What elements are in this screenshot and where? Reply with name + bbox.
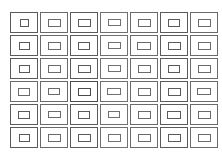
grid-cell: [9, 11, 39, 34]
inner-rectangle: [78, 65, 91, 73]
grid-cell: [159, 11, 189, 34]
pattern-canvas: [0, 0, 222, 156]
grid-cell: [39, 103, 69, 126]
inner-rectangle: [138, 88, 151, 96]
inner-rectangle: [19, 42, 30, 50]
grid-cell: [189, 80, 219, 103]
grid-cell: [159, 34, 189, 57]
inner-rectangle: [108, 19, 121, 26]
inner-rectangle: [19, 65, 30, 73]
grid-cell: [129, 57, 159, 80]
grid-cell: [159, 80, 189, 103]
grid-cell: [99, 103, 129, 126]
inner-rectangle: [198, 19, 211, 27]
inner-rectangle: [198, 65, 211, 73]
grid-cell: [99, 11, 129, 34]
grid-cell: [69, 80, 99, 103]
inner-rectangle: [48, 42, 61, 50]
grid-cell: [99, 80, 129, 103]
grid-cell: [129, 103, 159, 126]
inner-rectangle: [78, 134, 91, 142]
inner-rectangle: [48, 65, 61, 73]
grid-cell: [189, 126, 219, 149]
grid-cell: [159, 103, 189, 126]
inner-rectangle: [48, 111, 61, 118]
grid-cell: [159, 57, 189, 80]
inner-rectangle: [18, 111, 30, 119]
inner-rectangle: [108, 134, 121, 142]
grid-cell: [129, 34, 159, 57]
inner-rectangle: [48, 88, 60, 95]
inner-rectangle: [108, 111, 120, 118]
inner-rectangle: [107, 88, 121, 95]
grid-cell: [9, 57, 39, 80]
grid-cell: [39, 34, 69, 57]
grid-cell: [159, 126, 189, 149]
inner-rectangle: [138, 65, 151, 73]
grid-cell: [69, 103, 99, 126]
grid-cell: [189, 57, 219, 80]
grid-cell: [69, 57, 99, 80]
grid-cell: [129, 80, 159, 103]
grid-cell: [129, 126, 159, 149]
grid-cell: [9, 80, 39, 103]
grid-cell: [189, 103, 219, 126]
inner-rectangle: [18, 88, 30, 96]
inner-rectangle: [198, 111, 211, 119]
rectangle-grid: [9, 11, 219, 149]
grid-cell: [99, 126, 129, 149]
inner-rectangle: [137, 42, 151, 50]
grid-cell: [189, 34, 219, 57]
grid-cell: [39, 57, 69, 80]
grid-cell: [39, 126, 69, 149]
grid-cell: [129, 11, 159, 34]
grid-cell: [99, 57, 129, 80]
inner-rectangle: [20, 19, 29, 27]
inner-rectangle: [48, 134, 61, 142]
grid-cell: [69, 126, 99, 149]
grid-cell: [39, 80, 69, 103]
inner-rectangle: [168, 88, 181, 96]
inner-rectangle: [108, 65, 121, 72]
inner-rectangle: [138, 134, 151, 142]
grid-cell: [189, 11, 219, 34]
inner-rectangle: [48, 19, 61, 27]
inner-rectangle: [198, 42, 211, 50]
inner-rectangle: [138, 19, 151, 27]
inner-rectangle: [168, 134, 181, 142]
grid-cell: [9, 126, 39, 149]
grid-cell: [99, 34, 129, 57]
grid-cell: [9, 34, 39, 57]
inner-rectangle: [168, 42, 181, 50]
inner-rectangle: [19, 134, 30, 142]
grid-cell: [9, 103, 39, 126]
inner-rectangle: [167, 111, 181, 119]
inner-rectangle: [138, 111, 151, 119]
inner-rectangle: [108, 42, 121, 49]
inner-rectangle: [198, 134, 211, 142]
inner-rectangle: [78, 19, 91, 27]
grid-cell: [69, 11, 99, 34]
inner-rectangle: [197, 88, 211, 95]
grid-cell: [39, 11, 69, 34]
grid-cell: [69, 34, 99, 57]
inner-rectangle: [168, 19, 180, 27]
inner-rectangle: [78, 88, 91, 96]
inner-rectangle: [78, 42, 90, 50]
inner-rectangle: [168, 65, 180, 73]
inner-rectangle: [78, 111, 90, 119]
